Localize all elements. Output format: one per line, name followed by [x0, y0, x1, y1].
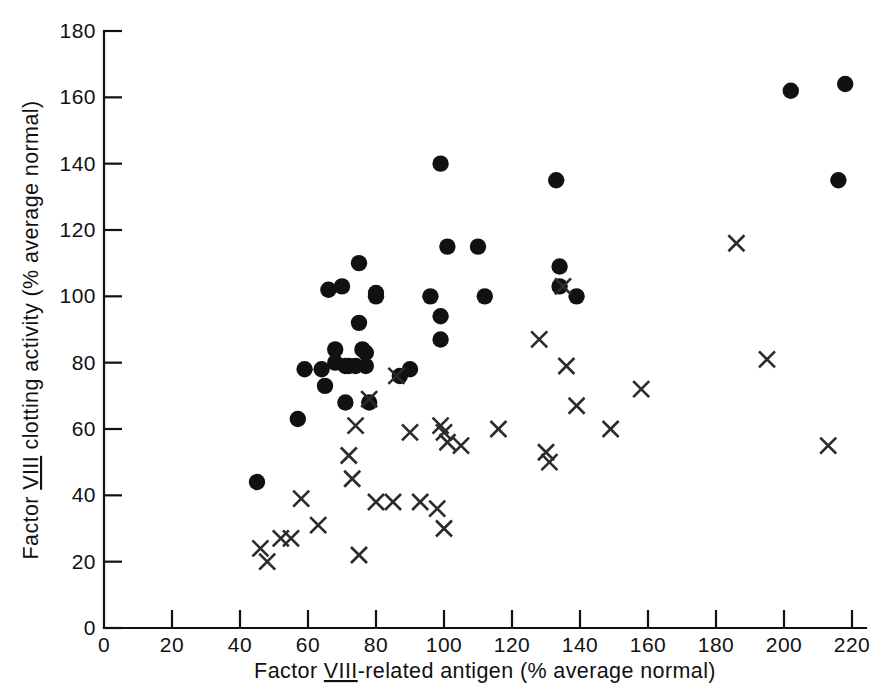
data-point-cross	[344, 471, 360, 487]
data-point-cross	[569, 398, 585, 414]
x-axis-title-prefix: Factor	[254, 659, 324, 683]
x-tick-label: 80	[364, 633, 388, 656]
data-series-filled-circles	[249, 76, 854, 490]
data-point-cross	[293, 491, 309, 507]
data-point-circle	[296, 361, 312, 377]
x-axis-tick-labels: 020406080100120140160180200220	[98, 633, 870, 656]
data-point-circle	[317, 378, 333, 394]
y-axis-ticks	[104, 31, 122, 628]
y-axis-title: Factor VIII clotting activity (% average…	[19, 101, 43, 560]
data-point-circle	[551, 258, 567, 274]
x-tick-label: 40	[228, 633, 252, 656]
data-point-cross	[351, 547, 367, 563]
data-point-cross	[453, 438, 469, 454]
y-axis-title-prefix: Factor	[19, 490, 43, 560]
data-point-circle	[358, 358, 374, 374]
data-point-cross	[633, 381, 649, 397]
data-point-circle	[830, 172, 846, 188]
data-point-circle	[351, 255, 367, 271]
data-point-circle	[351, 315, 367, 331]
x-tick-label: 180	[698, 633, 735, 656]
x-tick-label: 140	[562, 633, 599, 656]
x-tick-label: 200	[766, 633, 803, 656]
data-point-cross	[283, 530, 299, 546]
y-tick-label: 80	[72, 351, 96, 374]
y-axis-title-roman: VIII	[19, 456, 43, 490]
x-tick-label: 20	[160, 633, 184, 656]
data-point-cross	[820, 438, 836, 454]
data-point-cross	[348, 418, 364, 434]
x-axis-title: Factor VIII-related antigen (% average n…	[254, 659, 716, 683]
x-axis-title-suffix: -related antigen (% average normal)	[358, 659, 716, 683]
y-tick-label: 40	[72, 483, 96, 506]
x-tick-label: 220	[834, 633, 871, 656]
data-point-circle	[432, 331, 448, 347]
data-point-cross	[759, 351, 775, 367]
data-point-circle	[432, 308, 448, 324]
data-point-circle	[368, 288, 384, 304]
y-tick-label: 20	[72, 550, 96, 573]
x-tick-label: 100	[426, 633, 463, 656]
data-point-circle	[837, 76, 853, 92]
data-point-cross	[490, 421, 506, 437]
scatter-plot-figure: 020406080100120140160180 020406080100120…	[0, 0, 888, 698]
data-point-circle	[249, 474, 265, 490]
y-tick-label: 140	[59, 152, 96, 175]
data-point-circle	[551, 278, 567, 294]
data-point-circle	[477, 288, 493, 304]
data-point-circle	[439, 238, 455, 254]
y-axis-title-suffix: clotting activity (% average normal)	[19, 101, 43, 456]
data-point-circle	[422, 288, 438, 304]
x-tick-label: 160	[630, 633, 667, 656]
data-point-cross	[341, 448, 357, 464]
x-tick-label: 120	[494, 633, 531, 656]
data-point-circle	[568, 288, 584, 304]
data-point-cross	[531, 331, 547, 347]
x-tick-label: 0	[98, 633, 110, 656]
data-point-cross	[310, 517, 326, 533]
data-point-cross	[436, 521, 452, 537]
data-point-circle	[337, 394, 353, 410]
y-tick-label: 120	[59, 218, 96, 241]
data-point-cross	[412, 494, 428, 510]
data-point-circle	[783, 83, 799, 99]
data-point-circle	[432, 155, 448, 171]
data-point-circle	[320, 282, 336, 298]
data-point-cross	[385, 494, 401, 510]
data-point-circle	[470, 238, 486, 254]
y-tick-label: 60	[72, 417, 96, 440]
data-point-cross	[603, 421, 619, 437]
y-tick-label: 180	[59, 19, 96, 42]
data-point-cross	[558, 358, 574, 374]
data-point-cross	[402, 424, 418, 440]
x-axis-ticks	[172, 610, 852, 628]
data-point-cross	[429, 501, 445, 517]
y-axis-tick-labels: 020406080100120140160180	[59, 19, 96, 639]
y-tick-label: 0	[84, 616, 96, 639]
data-point-circle	[290, 411, 306, 427]
y-tick-label: 100	[59, 284, 96, 307]
x-axis-title-roman: VIII	[324, 659, 358, 683]
x-tick-label: 60	[296, 633, 320, 656]
scatter-plot-canvas: 020406080100120140160180 020406080100120…	[0, 0, 888, 698]
data-point-cross	[368, 494, 384, 510]
data-point-circle	[548, 172, 564, 188]
y-tick-label: 160	[59, 85, 96, 108]
data-point-cross	[728, 235, 744, 251]
data-point-circle	[361, 394, 377, 410]
data-point-circle	[334, 278, 350, 294]
